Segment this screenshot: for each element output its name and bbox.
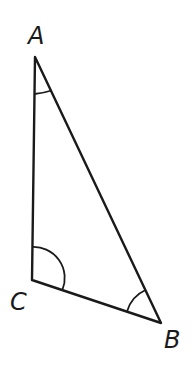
vertex-label-a: A <box>26 22 44 50</box>
triangle-abc <box>32 57 161 323</box>
angle-arc-c <box>32 247 65 290</box>
triangle-diagram: A B C <box>0 0 194 365</box>
vertex-label-c: C <box>10 288 27 316</box>
vertex-label-b: B <box>164 326 180 354</box>
angle-arc-a <box>34 91 51 95</box>
angle-arc-b <box>127 290 146 312</box>
